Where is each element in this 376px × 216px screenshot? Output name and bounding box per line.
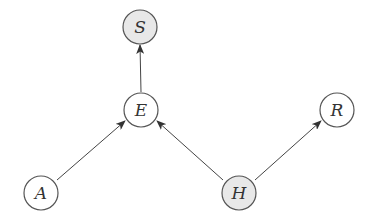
node-s: S [123,10,157,44]
edge-e-to-s [140,45,141,92]
edge-h-to-r [255,121,321,180]
diagram-canvas: S E R A H [0,0,376,216]
node-h: H [222,176,256,210]
node-s-label: S [134,17,146,37]
edge-a-to-e [57,121,125,180]
node-a: A [24,176,58,210]
node-e-label: E [134,100,148,120]
node-e: E [124,93,158,127]
edge-h-to-e [157,121,223,180]
edges [57,45,321,180]
node-r: R [320,93,354,127]
node-a-label: A [33,183,47,203]
node-h-label: H [231,183,248,203]
node-r-label: R [330,100,344,120]
